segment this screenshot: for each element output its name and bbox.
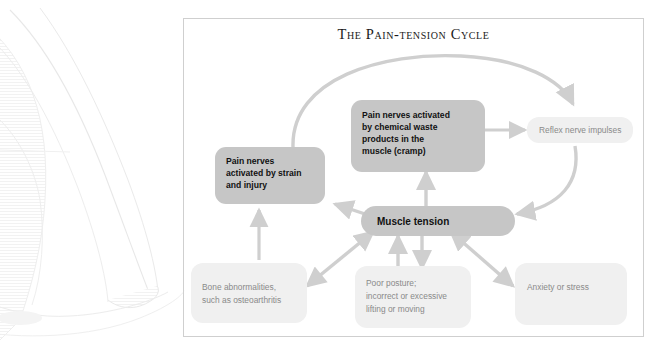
node-pain-nerves-strain-line-1: Pain nerves	[226, 156, 274, 166]
node-pain-nerves-cramp[interactable]: Pain nerves activated by chemical waste …	[351, 100, 485, 172]
pain-tension-cycle-diagram: Pain nerves activated by strain and inju…	[183, 18, 644, 337]
node-bone-abnormalities-line-1: Bone abnormalities,	[202, 282, 276, 292]
node-poor-posture[interactable]: Poor posture; incorrect or excessive lif…	[355, 266, 471, 328]
node-muscle-tension-label: Muscle tension	[377, 216, 449, 227]
node-pain-nerves-strain-line-2: activated by strain	[226, 168, 301, 178]
edge-reflex-to-muscle-tension	[517, 146, 576, 214]
node-anxiety-or-stress-label: Anxiety or stress	[527, 282, 589, 292]
node-pain-nerves-strain-line-3: and injury	[226, 180, 267, 190]
node-bone-abnormalities-line-2: such as osteoarthritis	[202, 295, 281, 305]
node-bone-abnormalities[interactable]: Bone abnormalities, such as osteoarthrit…	[191, 263, 307, 323]
node-pain-nerves-strain[interactable]: Pain nerves activated by strain and inju…	[215, 147, 325, 204]
edge-muscle-tension-to-pain-strain	[335, 204, 365, 214]
node-poor-posture-line-3: lifting or moving	[366, 304, 425, 314]
node-reflex-nerve-impulses[interactable]: Reflex nerve impulses	[527, 117, 633, 143]
node-pain-nerves-cramp-line-2: by chemical waste	[362, 122, 438, 132]
node-anxiety-or-stress[interactable]: Anxiety or stress	[515, 263, 627, 325]
node-muscle-tension[interactable]: Muscle tension	[361, 206, 515, 236]
figure-page: The Pain-tension Cycle	[0, 0, 658, 352]
node-reflex-nerve-impulses-label: Reflex nerve impulses	[539, 125, 621, 135]
node-pain-nerves-cramp-line-3: products in the	[362, 134, 424, 144]
node-pain-nerves-cramp-line-4: muscle (cramp)	[362, 146, 426, 156]
node-poor-posture-line-1: Poor posture;	[366, 278, 416, 288]
node-pain-nerves-cramp-line-1: Pain nerves activated	[362, 110, 450, 120]
node-poor-posture-line-2: incorrect or excessive	[366, 291, 447, 301]
